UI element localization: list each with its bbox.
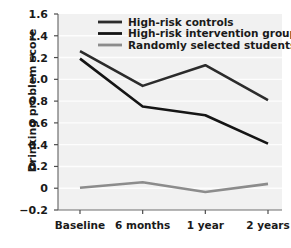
y-axis-tick-labels: 1.61.41.21.00.80.60.40.20−0.2 [16,0,48,248]
y-axis-tick-label: 1.2 [16,51,48,64]
x-axis-tick-label: 2 years [246,219,289,231]
x-axis-tick-label: 1 year [187,219,224,231]
drinking-problem-score-line-chart: Drinking problem score 1.61.41.21.00.80.… [0,0,291,248]
x-axis-ticks [80,210,268,214]
y-axis-tick-label: −0.2 [16,204,48,217]
legend-item-label: High-risk controls [128,16,234,28]
y-axis-tick-label: 1.6 [16,8,48,21]
y-axis-tick-label: 0.6 [16,116,48,129]
x-axis-tick-label: 6 months [115,219,170,231]
y-axis-tick-label: 0.8 [16,95,48,108]
legend-item-label: Randomly selected students [128,39,291,51]
y-axis-tick-label: 0 [16,182,48,195]
y-axis-tick-label: 1.0 [16,73,48,86]
y-axis-tick-label: 1.4 [16,29,48,42]
y-axis-tick-label: 0.4 [16,138,48,151]
x-axis-tick-label: Baseline [55,219,105,231]
y-axis-tick-label: 0.2 [16,160,48,173]
legend-item-label: High-risk intervention group [128,27,291,39]
